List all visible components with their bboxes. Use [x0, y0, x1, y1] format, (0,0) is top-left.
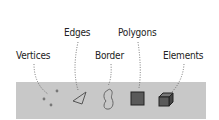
leader-polygons: [138, 42, 140, 88]
elements-icon[interactable]: [159, 93, 173, 106]
border-icon[interactable]: [104, 89, 113, 109]
leader-border: [108, 64, 111, 86]
edges-icon[interactable]: [73, 92, 86, 104]
vertices-icon[interactable]: [43, 90, 59, 107]
leader-elements: [172, 64, 184, 92]
diagram-overlay: [0, 0, 219, 120]
leader-edges: [75, 42, 78, 90]
leader-lines: [34, 42, 184, 94]
polygons-icon[interactable]: [131, 92, 144, 105]
leader-vertices: [34, 64, 48, 94]
